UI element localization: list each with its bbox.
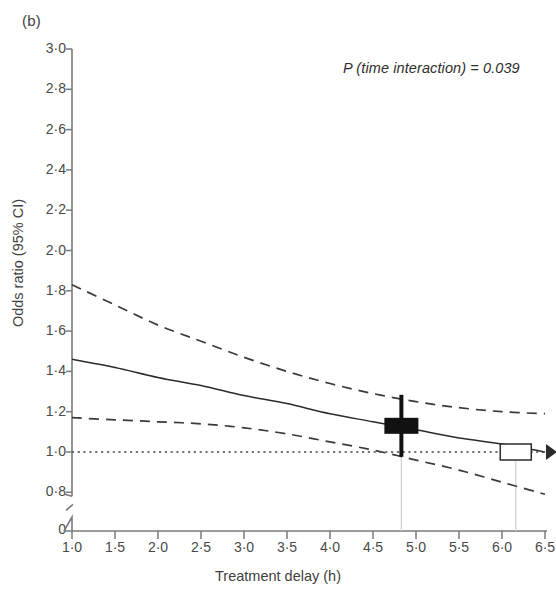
curves-group bbox=[72, 285, 545, 495]
plot-canvas bbox=[0, 0, 556, 605]
series-line-dashed bbox=[72, 285, 545, 414]
open-box-marker bbox=[500, 444, 531, 460]
filled-box-marker bbox=[384, 418, 418, 434]
markers-group bbox=[384, 395, 556, 460]
figure-panel: (b) P (time interaction) = 0.039 Odds ra… bbox=[0, 0, 556, 605]
y-axis-break bbox=[65, 494, 73, 510]
series-line-dashed bbox=[72, 418, 545, 495]
axes-group bbox=[64, 49, 547, 539]
series-line-solid bbox=[72, 359, 545, 452]
guide-lines-group bbox=[401, 452, 515, 531]
right-arrow-icon bbox=[546, 444, 556, 460]
y-axis-break-lower bbox=[64, 517, 72, 531]
